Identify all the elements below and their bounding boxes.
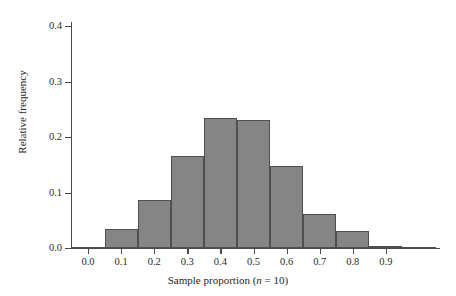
y-axis-tick-label: 0.2: [22, 132, 62, 143]
y-axis-tick-mark: [65, 137, 71, 138]
x-axis-tick-mark: [88, 249, 89, 255]
y-axis-tick-label: 0.4: [22, 21, 62, 32]
y-axis-tick-label: 0.0: [22, 243, 62, 254]
histogram-bar: [171, 156, 204, 248]
x-axis-title: Sample proportion (n = 10): [0, 274, 456, 286]
histogram-bar: [138, 200, 171, 248]
plot-area: 0.00.10.20.30.4 0.00.10.20.30.40.50.60.7…: [0, 0, 456, 296]
x-axis-tick-mark: [287, 249, 288, 255]
x-axis-tick-mark: [220, 249, 221, 255]
x-axis-title-before: Sample proportion (: [168, 274, 257, 286]
x-axis-line: [71, 248, 440, 249]
x-axis-tick-mark: [320, 249, 321, 255]
x-axis-tick-mark: [254, 249, 255, 255]
x-axis-tick-mark: [353, 249, 354, 255]
histogram-bar: [336, 231, 369, 248]
y-axis-tick-mark: [65, 26, 71, 27]
histogram-bar: [303, 214, 336, 248]
y-axis-title: Relative frequency: [16, 52, 28, 172]
histogram-bar: [270, 166, 303, 248]
x-axis-tick-mark: [187, 249, 188, 255]
histogram-bar: [237, 120, 270, 248]
y-axis-tick-mark: [65, 248, 71, 249]
x-axis-tick-mark: [121, 249, 122, 255]
histogram-figure: 0.00.10.20.30.4 0.00.10.20.30.40.50.60.7…: [0, 0, 456, 296]
x-axis-tick-mark: [154, 249, 155, 255]
histogram-bar: [105, 229, 138, 248]
y-axis-line: [71, 22, 72, 249]
histogram-bar: [204, 118, 237, 248]
y-axis-tick-mark: [65, 82, 71, 83]
y-axis-tick-label: 0.3: [22, 77, 62, 88]
y-axis-tick-mark: [65, 193, 71, 194]
x-axis-title-after: = 10): [262, 274, 288, 286]
x-axis-tick-label: 0.9: [366, 257, 406, 268]
x-axis-tick-mark: [386, 249, 387, 255]
y-axis-tick-label: 0.1: [22, 188, 62, 199]
